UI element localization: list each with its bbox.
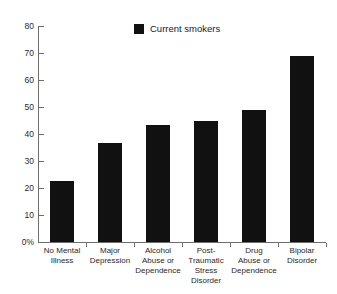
- x-axis-label-line: Post-Traumatic: [182, 246, 230, 266]
- y-axis-tick-label: 40: [25, 130, 34, 139]
- y-axis-tick: [38, 134, 44, 135]
- x-axis-category-label: MajorDepression: [86, 246, 134, 266]
- y-axis-tick-label: 20: [25, 184, 34, 193]
- x-axis-tick: [326, 243, 327, 247]
- y-axis-tick-label: 70: [25, 49, 34, 58]
- y-axis-tick: [38, 53, 44, 54]
- x-axis-label-line: Illness: [38, 256, 86, 266]
- bar: [146, 125, 170, 242]
- y-axis-tick: [38, 161, 44, 162]
- y-axis-tick-label: 10: [25, 211, 34, 220]
- x-axis-label-line: Disorder: [182, 276, 230, 286]
- x-axis-label-line: Abuse or: [230, 256, 278, 266]
- bar: [98, 143, 122, 242]
- y-axis-tick-label: 30: [25, 157, 34, 166]
- bar-chart-figure: 80706050403020100% No MentalIllnessMajor…: [0, 0, 337, 294]
- y-axis-tick: [38, 80, 44, 81]
- bar: [50, 181, 74, 242]
- x-axis-label-line: No Mental: [38, 246, 86, 256]
- bar: [290, 56, 314, 242]
- x-axis-label-line: Disorder: [278, 256, 326, 266]
- y-axis-tick: [38, 242, 44, 243]
- x-axis-category-label: BipolarDisorder: [278, 246, 326, 266]
- x-axis-label-line: Drug: [230, 246, 278, 256]
- y-axis-tick-label: 50: [25, 103, 34, 112]
- x-axis-label-line: Dependence: [134, 266, 182, 276]
- bar: [194, 121, 218, 243]
- y-axis-tick: [38, 215, 44, 216]
- y-axis-tick-label: 80: [25, 22, 34, 31]
- y-axis-tick: [38, 188, 44, 189]
- x-axis-label-line: Stress: [182, 266, 230, 276]
- x-axis-category-label: DrugAbuse orDependence: [230, 246, 278, 276]
- x-axis-label-line: Abuse or: [134, 256, 182, 266]
- y-axis-tick-label: 60: [25, 76, 34, 85]
- legend-swatch-current-smokers: [134, 24, 144, 34]
- y-axis-tick: [38, 107, 44, 108]
- x-axis-category-label: AlcoholAbuse orDependence: [134, 246, 182, 276]
- x-axis-label-line: Dependence: [230, 266, 278, 276]
- x-axis-label-line: Depression: [86, 256, 134, 266]
- y-axis-tick-label: 0%: [22, 238, 34, 247]
- x-axis-category-label: Post-TraumaticStressDisorder: [182, 246, 230, 286]
- legend-label-current-smokers: Current smokers: [150, 24, 220, 34]
- x-axis-label-line: Bipolar: [278, 246, 326, 256]
- x-axis-category-label: No MentalIllness: [38, 246, 86, 266]
- x-axis-label-line: Major: [86, 246, 134, 256]
- y-axis-tick: [38, 26, 44, 27]
- legend: Current smokers: [134, 24, 220, 34]
- x-axis-label-line: Alcohol: [134, 246, 182, 256]
- bar: [242, 110, 266, 242]
